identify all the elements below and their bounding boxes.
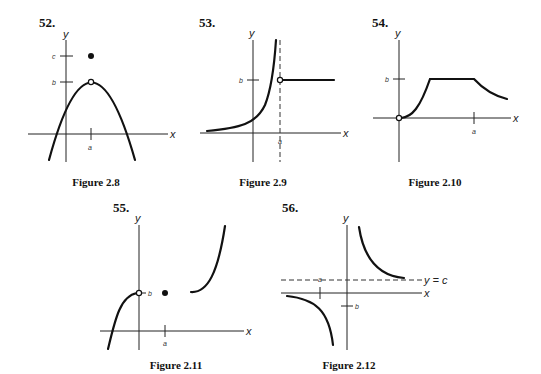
tick-label-b: b (385, 76, 389, 83)
x-axis-label: x (245, 325, 252, 337)
tick-label-a: a (163, 340, 167, 347)
tick-label-a: a (88, 144, 92, 151)
figure-2-8: 52. y x c b a Figure 2.8 (28, 15, 176, 188)
filled-point (162, 290, 168, 296)
figure-2-12: 56. y x y = c a b Figure 2.12 (281, 200, 448, 371)
caption: Figure 2.9 (239, 176, 287, 188)
caption: Figure 2.8 (72, 176, 120, 188)
problem-number-55: 55. (113, 200, 129, 215)
asymptote-label: y = c (423, 274, 448, 286)
piecewise-curve (401, 79, 507, 118)
problem-number-54: 54. (372, 15, 388, 30)
x-axis-label: x (342, 127, 349, 139)
y-axis-label: y (134, 212, 142, 224)
y-axis-label: y (394, 27, 402, 39)
caption: Figure 2.12 (323, 359, 376, 371)
open-point (136, 290, 141, 295)
right-curve (191, 226, 225, 292)
tick-label-a: a (318, 276, 322, 283)
y-axis-label: y (342, 212, 350, 224)
asymptotic-curve (207, 40, 276, 131)
x-axis-label: x (169, 128, 176, 140)
filled-point (88, 53, 94, 59)
x-axis-label: x (512, 112, 519, 124)
open-point (277, 77, 282, 82)
open-point (396, 115, 401, 120)
y-axis-label: y (62, 28, 70, 40)
left-curve (108, 293, 137, 349)
figure-2-9: 53. y x b a Figure 2.9 (199, 15, 349, 188)
open-point (88, 79, 93, 84)
figures-canvas: 52. y x c b a Figure 2.8 53. y x b a Fig… (0, 0, 541, 374)
tick-label-b: b (355, 303, 359, 310)
tick-label-a: a (472, 128, 476, 135)
tick-label-b: b (52, 79, 56, 86)
caption: Figure 2.10 (409, 176, 462, 188)
problem-number-53: 53. (199, 15, 215, 30)
y-axis-label: y (248, 27, 256, 39)
tick-label-a: a (278, 138, 282, 145)
upper-branch (359, 227, 404, 278)
tick-label-c: c (52, 53, 56, 60)
x-axis-label: x (423, 287, 430, 299)
tick-label-b: b (148, 290, 152, 297)
figure-2-10: 54. y x b a Figure 2.10 (372, 15, 519, 188)
caption: Figure 2.11 (150, 359, 202, 371)
figure-2-11: 55. y x b a Figure 2.11 (100, 200, 252, 371)
tick-label-b: b (239, 77, 243, 84)
lower-branch (287, 296, 333, 345)
problem-number-56: 56. (282, 200, 298, 215)
problem-number-52: 52. (39, 15, 55, 30)
parabola-curve (49, 83, 135, 161)
